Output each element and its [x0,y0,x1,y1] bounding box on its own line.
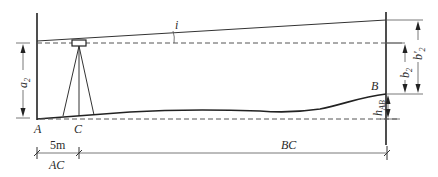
a2-arrow-down-icon [21,108,26,117]
bc-label: BC [281,138,297,152]
tripod-leg-right [79,46,94,115]
leveling-diagram: i a2 b2 b'2 hAB A C B [0,0,438,177]
tripod-leg-left [63,46,79,116]
hab-label: hAB [371,100,387,116]
b2prime-arrow-up-icon [416,21,421,30]
a2-arrow-up-icon [21,44,26,53]
angle-i-label: i [175,18,178,32]
point-a-label: A [33,122,42,136]
b2prime-arrow-down-icon [416,84,421,93]
inclined-line-of-sight [37,20,386,41]
ac-label: AC [48,158,65,172]
ground-profile [37,94,386,119]
level-instrument [72,40,86,46]
point-b-label: B [371,79,379,93]
point-c-label: C [74,122,83,136]
b2-arrow-down-icon [403,84,408,93]
ac-distance-label: 5m [50,138,66,152]
b2-arrow-up-icon [403,44,408,53]
